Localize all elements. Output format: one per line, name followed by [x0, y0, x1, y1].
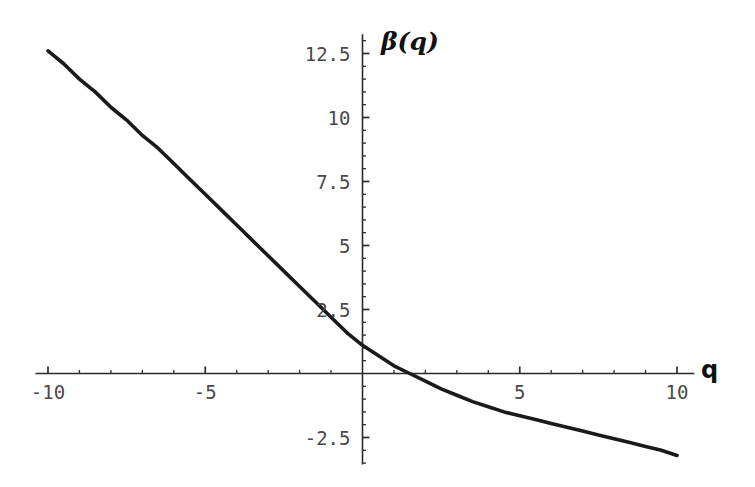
y-tick-label: 7.5 [316, 171, 350, 193]
x-axis-label: q [701, 356, 718, 384]
y-tick-label: 5 [339, 235, 350, 257]
x-tick-label: 10 [666, 381, 689, 403]
y-tick-label: 2.5 [316, 299, 350, 321]
y-tick-label: -2.5 [305, 427, 351, 449]
y-tick-label: 12.5 [305, 43, 351, 65]
x-tick-label: -10 [31, 381, 65, 403]
x-tick-label: 5 [514, 381, 525, 403]
x-tick-label: -5 [194, 381, 217, 403]
plot-background [0, 0, 755, 487]
plot-figure: -10-551012.5107.552.5-2.5 q β(q) [0, 0, 755, 487]
y-axis-label: β(q) [380, 27, 439, 56]
plot-canvas: -10-551012.5107.552.5-2.5 q β(q) [0, 0, 755, 487]
y-tick-label: 10 [328, 107, 351, 129]
